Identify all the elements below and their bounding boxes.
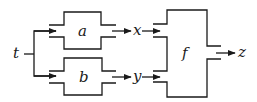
- input-t: t: [13, 31, 56, 76]
- signal-x: x: [112, 21, 160, 39]
- label-t: t: [13, 44, 20, 62]
- block-f-lower: [153, 59, 221, 97]
- label-x: x: [133, 21, 142, 39]
- label-b: b: [79, 68, 89, 86]
- block-f: f: [153, 10, 221, 97]
- block-f-left-middle: [153, 37, 167, 71]
- signal-y: y: [112, 67, 160, 85]
- label-a: a: [78, 22, 87, 40]
- block-diagram: t a b x y f z: [0, 0, 257, 102]
- label-z: z: [237, 43, 246, 61]
- label-f: f: [181, 44, 190, 62]
- label-y: y: [132, 67, 142, 85]
- block-f-upper: [153, 10, 221, 46]
- block-a: a: [49, 12, 116, 49]
- split-wire: [34, 31, 56, 76]
- block-b: b: [49, 58, 116, 95]
